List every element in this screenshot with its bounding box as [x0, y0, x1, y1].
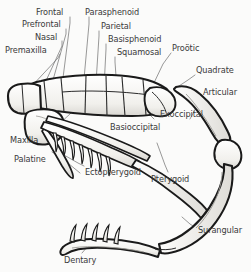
label-parietal: Parietal [101, 22, 131, 31]
label-squamosal: Squamosal [117, 48, 161, 57]
label-maxilla: Maxilla [10, 136, 38, 145]
pterygoid-bone [132, 160, 208, 218]
label-ectopterygoid: Ectopterygoid [85, 168, 141, 177]
label-parasphenoid: Parasphenoid [85, 8, 139, 17]
label-basisphenoid: Basisphenoid [108, 35, 161, 44]
anatomical-figure: Frontal Prefrontal Nasal Premaxilla Para… [0, 0, 251, 272]
label-prefrontal: Prefrontal [22, 20, 61, 29]
label-nasal: Nasal [35, 33, 57, 42]
label-prootic: Proötic [172, 44, 199, 53]
label-quadrate: Quadrate [196, 66, 234, 75]
label-articular: Articular [203, 88, 237, 97]
label-frontal: Frontal [36, 8, 63, 17]
label-palatine: Palatine [14, 155, 46, 164]
label-pterygoid: Pterygoid [151, 175, 189, 184]
label-dentary: Dentary [64, 256, 96, 265]
label-premaxilla: Premaxilla [5, 46, 47, 55]
label-exoccipital: Exoccipital [160, 110, 203, 119]
label-surangular: Surangular [198, 226, 242, 235]
label-basioccipital: Basioccipital [110, 123, 160, 132]
